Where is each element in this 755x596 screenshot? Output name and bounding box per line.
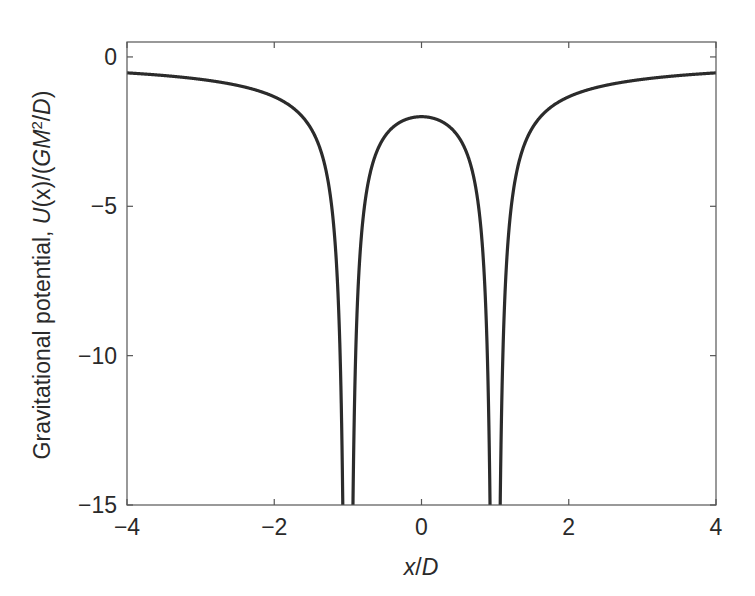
x-tick-label: −2 — [261, 514, 287, 540]
x-tick-label: 2 — [562, 514, 575, 540]
x-tick-label: 0 — [415, 514, 428, 540]
x-tick-label: 4 — [710, 514, 723, 540]
y-tick-label: −5 — [91, 193, 117, 219]
y-axis-label: Gravitational potential, U(x)/(GM2/D) — [28, 91, 55, 460]
y-tick-label: −10 — [78, 343, 117, 369]
potential-chart: −4−2024 0−5−10−15 x/D Gravitational pote… — [0, 0, 755, 596]
y-tick-label: 0 — [104, 44, 117, 70]
y-tick-label: −15 — [78, 492, 117, 518]
x-axis-label: x/D — [403, 554, 439, 580]
x-tick-label: −4 — [114, 514, 140, 540]
